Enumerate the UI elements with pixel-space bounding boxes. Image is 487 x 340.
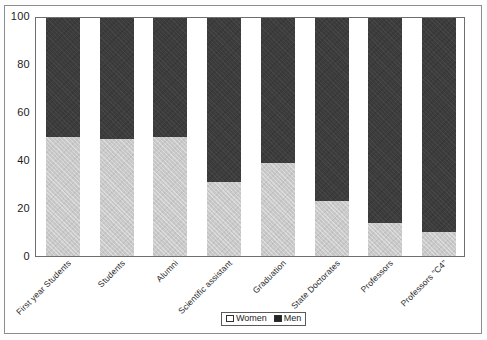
legend-entry: Men <box>274 314 302 323</box>
bar-stack <box>153 18 187 256</box>
bar-segment-women <box>368 223 402 256</box>
bar-group <box>46 18 80 256</box>
bar-stack <box>315 18 349 256</box>
bar-segment-men <box>207 18 241 182</box>
bar-segment-men <box>422 18 456 232</box>
bar-segment-women <box>153 137 187 256</box>
bar-stack <box>261 18 295 256</box>
plot-area <box>35 17 465 257</box>
x-tick-label: State Doctorates <box>289 258 342 311</box>
figure-root: 100806040200 First year StudentsStudents… <box>0 0 487 340</box>
bar-segment-men <box>368 18 402 223</box>
y-tick-label: 100 <box>11 11 30 22</box>
x-tick-label: Students <box>95 258 126 289</box>
bar-segment-women <box>315 201 349 256</box>
bar-segment-women <box>46 137 80 256</box>
bar-group <box>207 18 241 256</box>
y-axis: 100806040200 <box>0 0 33 275</box>
bar-segment-women <box>261 163 295 256</box>
x-axis: First year StudentsStudentsAlumniScienti… <box>35 258 465 320</box>
chart-legend: WomenMen <box>221 312 306 326</box>
y-tick-label: 20 <box>17 203 30 214</box>
y-tick-label: 80 <box>17 59 30 70</box>
bar-segment-men <box>46 18 80 137</box>
x-tick-label: Professors "C4" <box>399 258 449 308</box>
men-swatch-icon <box>274 315 282 322</box>
bar-group <box>315 18 349 256</box>
bar-segment-men <box>100 18 134 139</box>
bar-stack <box>422 18 456 256</box>
legend-label: Women <box>236 314 267 323</box>
bar-segment-men <box>153 18 187 137</box>
women-swatch-icon <box>226 315 234 322</box>
bar-group <box>100 18 134 256</box>
bar-stack <box>46 18 80 256</box>
bar-segment-men <box>315 18 349 201</box>
x-tick-label: Alumni <box>155 258 181 284</box>
bar-segment-women <box>207 182 241 256</box>
bar-segment-men <box>261 18 295 163</box>
y-tick-label: 60 <box>17 107 30 118</box>
bar-stack <box>100 18 134 256</box>
y-tick-label: 40 <box>17 155 30 166</box>
x-tick-label: Graduation <box>250 258 288 296</box>
bar-group <box>422 18 456 256</box>
y-tick-label: 0 <box>24 251 30 262</box>
bar-stack <box>207 18 241 256</box>
bar-group <box>153 18 187 256</box>
bar-segment-women <box>422 232 456 256</box>
legend-entry: Women <box>226 314 267 323</box>
bar-group <box>368 18 402 256</box>
x-tick-label: Scientific assistant <box>176 258 234 316</box>
legend-label: Men <box>284 314 302 323</box>
bar-group <box>261 18 295 256</box>
x-tick-label: Professors <box>359 258 396 295</box>
bar-segment-women <box>100 139 134 256</box>
bar-stack <box>368 18 402 256</box>
